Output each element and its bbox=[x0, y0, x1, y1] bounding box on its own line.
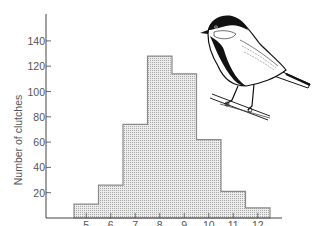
histogram-chart: 56789101112 20406080100120140 Number of … bbox=[0, 0, 325, 226]
x-tick-label: 6 bbox=[108, 219, 114, 226]
x-tick-label: 5 bbox=[83, 219, 89, 226]
y-tick-label: 140 bbox=[27, 35, 45, 47]
x-tick-label: 12 bbox=[252, 219, 264, 226]
x-tick-label: 11 bbox=[228, 219, 239, 226]
y-tick-label: 120 bbox=[27, 60, 45, 72]
y-axis-label: Number of clutches bbox=[12, 95, 24, 185]
x-tick-label: 8 bbox=[157, 219, 163, 226]
x-tick-label: 9 bbox=[181, 219, 187, 226]
y-axis-ticks: 20406080100120140 bbox=[27, 35, 51, 199]
x-tick-label: 7 bbox=[132, 219, 138, 226]
y-tick-label: 60 bbox=[33, 136, 45, 148]
x-tick-label: 10 bbox=[203, 219, 215, 226]
y-tick-label: 80 bbox=[33, 111, 45, 123]
y-tick-label: 20 bbox=[33, 187, 45, 199]
great-tit-bird-illustration bbox=[200, 16, 310, 120]
y-tick-label: 100 bbox=[27, 86, 45, 98]
y-tick-label: 40 bbox=[33, 161, 45, 173]
